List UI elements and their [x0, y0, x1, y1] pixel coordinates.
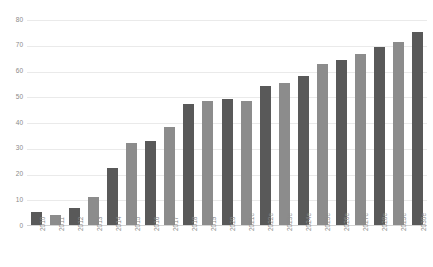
bar[interactable] — [393, 42, 404, 225]
x-axis-tick-label: 2013 — [97, 217, 104, 231]
bar[interactable] — [279, 83, 290, 225]
gridline — [27, 72, 427, 73]
gridline — [27, 46, 427, 47]
bar[interactable] — [260, 86, 271, 225]
bar[interactable] — [241, 101, 252, 225]
bar[interactable] — [355, 54, 366, 225]
x-axis-tick-label: 2027e — [363, 213, 370, 231]
x-axis-tick-label: 2016 — [154, 217, 161, 231]
x-axis-tick-label: 2014 — [116, 217, 123, 231]
x-axis-tick-label: 2011 — [59, 217, 66, 231]
bar[interactable] — [374, 47, 385, 225]
x-axis-tick-label: 2018 — [192, 217, 199, 231]
y-axis-tick-label: 10 — [0, 197, 23, 204]
x-axis-tick-label: 2015 — [135, 217, 142, 231]
x-axis-tick-label: 2023e — [287, 213, 294, 231]
y-axis-tick-label: 30 — [0, 145, 23, 152]
y-axis-tick-label: 20 — [0, 171, 23, 178]
bar[interactable] — [298, 76, 309, 225]
x-axis: 2010201120122013201420152016201720182019… — [27, 229, 427, 267]
bar[interactable] — [317, 64, 328, 225]
bar[interactable] — [164, 127, 175, 225]
bar[interactable] — [126, 143, 137, 225]
y-axis-tick-label: 40 — [0, 120, 23, 127]
x-axis-tick-label: 2022e — [268, 213, 275, 231]
x-axis-tick-label: 2020 — [230, 217, 237, 231]
y-axis-tick-label: 80 — [0, 17, 23, 24]
bar[interactable] — [412, 32, 423, 225]
x-axis-tick-label: 2021e — [249, 213, 256, 231]
bar[interactable] — [336, 60, 347, 225]
y-axis-tick-label: 60 — [0, 68, 23, 75]
bar-chart: 01020304050607080 2010201120122013201420… — [0, 0, 433, 267]
plot-area — [27, 20, 427, 226]
x-axis-tick-label: 2029e — [401, 213, 408, 231]
x-axis-tick-label: 2010 — [40, 217, 47, 231]
x-axis-tick-label: 2019 — [211, 217, 218, 231]
x-axis-tick-label: 2026e — [344, 213, 351, 231]
gridline — [27, 20, 427, 21]
x-axis-tick-label: 2028e — [382, 213, 389, 231]
bar[interactable] — [222, 99, 233, 225]
y-axis-tick-label: 0 — [0, 223, 23, 230]
y-axis-tick-label: 70 — [0, 42, 23, 49]
bar[interactable] — [202, 101, 213, 225]
chart-title — [0, 0, 433, 5]
y-axis-tick-label: 50 — [0, 94, 23, 101]
bar[interactable] — [183, 104, 194, 225]
x-axis-tick-label: 2024e — [306, 213, 313, 231]
x-axis-tick-label: 2030e — [421, 213, 428, 231]
x-axis-tick-label: 2017 — [173, 217, 180, 231]
x-axis-tick-label: 2025e — [325, 213, 332, 231]
bar[interactable] — [145, 141, 156, 225]
x-axis-tick-label: 2012 — [78, 217, 85, 231]
